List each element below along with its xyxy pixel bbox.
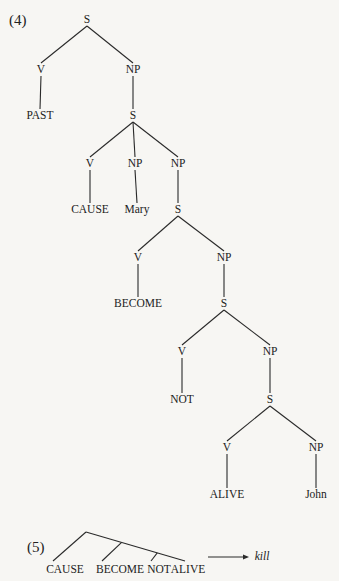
- example-number-4: (4): [9, 13, 27, 28]
- tree-node-s0: S: [84, 14, 90, 26]
- tree-node-np3: NP: [217, 252, 232, 264]
- tree-node-np0: NP: [126, 64, 141, 76]
- tree-edge: [133, 122, 135, 157]
- tree-edge: [178, 216, 224, 251]
- tree-edge: [135, 170, 137, 203]
- tree-node-np1: NP: [128, 158, 143, 170]
- tree-edge: [224, 310, 270, 345]
- bracket-spine: [86, 532, 185, 561]
- tree-node-s1: S: [130, 110, 136, 122]
- tree-node-s4: S: [267, 394, 273, 406]
- tree-edge: [138, 216, 178, 251]
- tree-node-become: BECOME: [114, 298, 162, 310]
- kill-label: kill: [255, 551, 270, 563]
- bracket-leaf-alive: ALIVE: [171, 564, 206, 576]
- tree-node-v2: V: [134, 252, 142, 264]
- tree-node-mary: Mary: [125, 204, 150, 216]
- arrow-head-icon: [243, 555, 249, 560]
- tree-node-past: PAST: [26, 110, 53, 122]
- bracket-edge: [53, 532, 86, 561]
- tree-node-not: NOT: [170, 394, 194, 406]
- bracket-edge: [102, 542, 122, 561]
- tree-node-v1: V: [86, 158, 94, 170]
- tree-edge: [227, 406, 270, 441]
- tree-node-john: John: [305, 489, 327, 501]
- tree-edge: [41, 26, 87, 63]
- bracket-leaf-become: BECOME: [96, 564, 144, 576]
- tree-node-s3: S: [221, 298, 227, 310]
- tree-node-v0: V: [37, 64, 45, 76]
- tree-edge: [182, 310, 224, 345]
- tree-node-v4: V: [223, 442, 231, 454]
- tree-node-np5: NP: [309, 442, 324, 454]
- example-number-5: (5): [27, 540, 45, 555]
- tree-node-s2: S: [175, 204, 181, 216]
- tree-node-np2: NP: [171, 158, 186, 170]
- tree-edge: [270, 406, 316, 441]
- tree-edge: [87, 26, 133, 63]
- tree-node-alive: ALIVE: [210, 489, 245, 501]
- syntax-tree-diagram: [0, 0, 339, 581]
- tree-node-cause: CAUSE: [71, 204, 109, 216]
- tree-edge: [133, 122, 178, 157]
- tree-node-v3: V: [178, 346, 186, 358]
- tree-edge: [40, 76, 41, 109]
- tree-edge: [90, 122, 133, 157]
- bracket-edge: [151, 553, 157, 561]
- bracket-leaf-cause: CAUSE: [46, 564, 84, 576]
- tree-node-np4: NP: [263, 346, 278, 358]
- bracket-leaf-not: NOT: [147, 564, 171, 576]
